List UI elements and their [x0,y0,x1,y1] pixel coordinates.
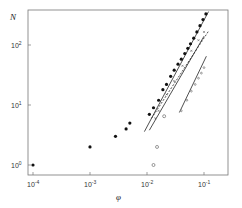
chart: 10-410-310-210-1100101102 N φ [0,0,242,208]
cross-marker [173,80,175,82]
small-open-circle-marker [190,90,192,92]
small-open-circle-marker [200,72,202,74]
filled-circle-marker [201,18,204,21]
filled-circle-marker [165,83,168,86]
filled-circle-marker [183,52,186,55]
cross-marker [158,110,160,112]
x-tick-label: 10-3 [84,179,96,188]
filled-circle-marker [186,47,189,50]
filled-circle-marker [173,69,176,72]
filled-circle-marker [204,12,207,15]
y-tick-label: 102 [11,40,22,49]
x-axis-label: φ [116,192,121,202]
y-axis-label: N [9,12,17,22]
filled-circle-marker [198,24,201,27]
cross-marker [197,39,199,41]
filled-circle-marker [88,145,91,148]
x-tick-exponent: -4 [35,179,40,185]
filled-circle-marker [189,42,192,45]
x-tick-exponent: -3 [92,179,97,185]
filled-circle-marker [152,106,155,109]
cross-marker [190,50,192,52]
filled-circle-marker [180,58,183,61]
filled-circle-marker [31,163,34,166]
axis-ticks: 10-410-310-210-1100101102 [11,40,210,188]
x-tick-label: 10-1 [198,179,210,188]
fit-line [152,31,209,118]
small-open-circle-marker [198,77,200,79]
filled-circle-marker [125,127,128,130]
y-tick-exponent: 1 [19,100,22,106]
x-tick-label: 10-4 [27,179,39,188]
fit-lines [144,12,208,132]
x-tick-exponent: -2 [149,179,154,185]
x-tick-exponent: -1 [206,179,211,185]
fit-line [179,56,206,112]
filled-circle-marker [114,135,117,138]
small-open-circle-marker [194,84,196,86]
filled-circle-marker [176,63,179,66]
filled-circle-marker [148,113,151,116]
filled-circle-marker [192,37,195,40]
filled-circle-marker [157,99,160,102]
filled-circle-marker [195,30,198,33]
small-open-circle-marker [186,99,188,101]
filled-circle-marker [128,121,131,124]
y-tick-exponent: 0 [19,160,22,166]
y-tick-label: 100 [11,160,22,169]
cross-marker [182,65,184,67]
small-open-circle-marker [180,110,182,112]
open-circle-marker [152,164,155,167]
open-circle-marker [156,145,159,148]
data-markers [31,12,207,166]
filled-circle-marker [169,75,172,78]
y-tick-label: 101 [11,100,22,109]
x-tick-label: 10-2 [141,179,153,188]
y-tick-exponent: 2 [19,40,22,46]
plot-border [28,10,228,175]
plot-frame [28,10,228,175]
small-open-circle-marker [203,67,205,69]
filled-circle-marker [161,88,164,91]
cross-marker [203,31,205,33]
open-circle-marker [163,115,166,118]
